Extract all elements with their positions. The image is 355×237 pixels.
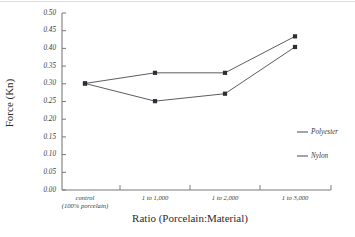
data-point-marker	[223, 71, 227, 75]
legend-label-nylon: Nylon	[310, 152, 329, 160]
x-tick-group: control(100% porcelain)1 to 1,0001 to 2,…	[62, 185, 309, 210]
y-tick-label: 0.15	[43, 133, 56, 141]
x-tick-label: 1 to 1,000	[142, 194, 169, 201]
x-tick-label: control	[76, 194, 95, 201]
legend-label-polyester: Polyester	[310, 128, 338, 136]
y-tick-label: 0.30	[43, 79, 56, 87]
line-chart: 0.000.050.100.150.200.250.300.350.400.45…	[0, 0, 355, 237]
data-point-marker	[223, 92, 227, 96]
data-point-marker	[293, 34, 297, 38]
x-tick-label-secondary: (100% porcelain)	[62, 202, 108, 210]
y-tick-label: 0.05	[43, 168, 56, 176]
y-tick-label: 0.00	[43, 186, 56, 194]
series-line-nylon	[85, 47, 295, 101]
y-tick-group: 0.000.050.100.150.200.250.300.350.400.45…	[43, 9, 66, 194]
y-axis-title: Force (Kn)	[3, 78, 16, 127]
y-tick-label: 0.20	[43, 115, 56, 123]
series-group	[83, 34, 297, 103]
chart-legend: PolyesterNylon	[297, 128, 338, 160]
y-tick-label: 0.25	[43, 97, 56, 105]
x-axis-title: Ratio (Porcelain:Material)	[132, 212, 248, 225]
data-point-marker	[153, 71, 157, 75]
y-tick-label: 0.35	[43, 62, 56, 70]
x-tick-label: 1 to 3,000	[282, 194, 309, 201]
data-point-marker	[83, 81, 87, 85]
data-point-marker	[293, 45, 297, 49]
series-line-polyester	[85, 36, 295, 83]
x-axis	[62, 185, 331, 190]
y-tick-label: 0.40	[43, 44, 56, 52]
y-tick-label: 0.50	[43, 9, 56, 17]
x-tick-label: 1 to 2,000	[212, 194, 239, 201]
y-tick-label: 0.10	[43, 150, 56, 158]
data-point-marker	[153, 99, 157, 103]
y-tick-label: 0.45	[43, 26, 56, 34]
